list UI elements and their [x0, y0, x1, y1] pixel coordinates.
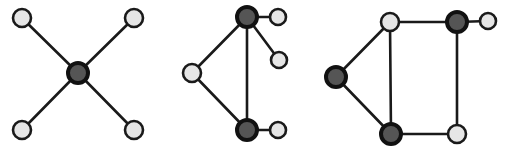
node-tl [381, 13, 399, 31]
two-hub-graph [183, 7, 287, 140]
graph-diagram-canvas [0, 0, 510, 153]
hub-node-t [237, 7, 257, 27]
node-br [270, 122, 286, 138]
node-br [448, 125, 466, 143]
edge-tl-bl [390, 22, 391, 134]
node-d [13, 121, 31, 139]
hub-node-c [68, 63, 88, 83]
node-l [183, 64, 201, 82]
hub-node-b [237, 120, 257, 140]
node-e [125, 121, 143, 139]
node-mr [271, 52, 287, 68]
star-graph [13, 9, 143, 139]
hub-node-bl [381, 124, 401, 144]
hub-node-tm [447, 12, 467, 32]
node-tr [270, 9, 286, 25]
cycle-graph [326, 12, 496, 144]
node-b [125, 9, 143, 27]
hub-node-l [326, 67, 346, 87]
node-a [13, 9, 31, 27]
node-tr [480, 13, 496, 29]
